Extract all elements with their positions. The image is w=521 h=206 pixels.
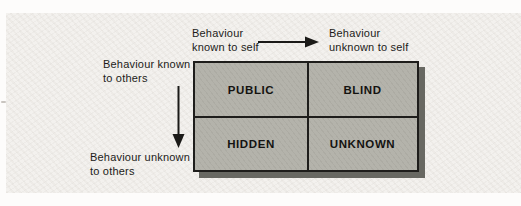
label-behaviour-known-to-others: Behaviour known to others (103, 57, 190, 85)
label-line: known to self (192, 40, 259, 54)
arrow-right-icon (257, 36, 320, 48)
label-line: to others (103, 71, 190, 85)
quadrant-public: PUBLIC (195, 63, 307, 116)
quadrant-unknown: UNKNOWN (308, 117, 417, 170)
label-line: Behaviour unknown (90, 150, 190, 164)
label-line: Behaviour (329, 26, 408, 40)
label-behaviour-unknown-to-others: Behaviour unknown to others (90, 150, 190, 178)
label-line: Behaviour (192, 26, 259, 40)
label-line: unknown to self (329, 40, 408, 54)
scan-artifact (1, 101, 6, 103)
label-behaviour-unknown-to-self: Behaviour unknown to self (329, 26, 408, 54)
matrix-horizontal-divider (195, 116, 417, 118)
label-line: to others (90, 164, 190, 178)
johari-matrix: PUBLIC BLIND HIDDEN UNKNOWN (193, 61, 419, 172)
johari-window-diagram: Behaviour known to self Behaviour unknow… (0, 0, 521, 206)
label-line: Behaviour known (103, 57, 190, 71)
arrow-down-icon (172, 84, 185, 149)
quadrant-blind: BLIND (308, 63, 417, 116)
quadrant-hidden: HIDDEN (195, 117, 307, 170)
label-behaviour-known-to-self: Behaviour known to self (192, 26, 259, 54)
